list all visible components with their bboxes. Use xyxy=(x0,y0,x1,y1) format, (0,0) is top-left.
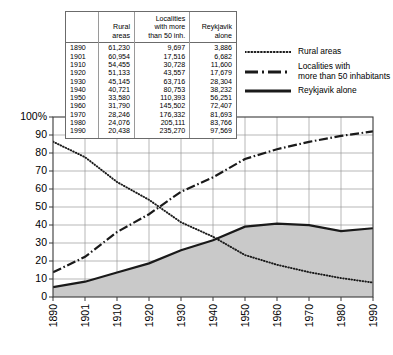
y-tick-label: 30 xyxy=(35,236,47,248)
table-row: 196031,790145,50272,407 xyxy=(66,102,236,110)
cell-rural-areas: 31,790 xyxy=(99,102,135,110)
cell-rural-areas: 45,145 xyxy=(99,78,135,86)
cell-localities: 205,111 xyxy=(134,119,189,127)
x-tick-label: 1950 xyxy=(239,304,251,328)
cell-year: 1980 xyxy=(66,119,99,127)
cell-year: 1990 xyxy=(66,127,99,137)
cell-year: 1920 xyxy=(66,69,99,77)
column-header-reykjavik: Reykjavik alone xyxy=(190,12,236,42)
y-tick-label: 0 xyxy=(41,290,47,302)
table-row: 198024,076205,11183,766 xyxy=(66,119,236,127)
legend-label: Reykjavik alone xyxy=(298,86,357,96)
y-tick-label: 70 xyxy=(35,164,47,176)
table-row: 189061,2309,6973,886 xyxy=(66,42,236,52)
cell-rural-areas: 28,246 xyxy=(99,111,135,119)
cell-rural-areas: 24,076 xyxy=(99,119,135,127)
cell-rural-areas: 60,954 xyxy=(99,53,135,61)
cell-year: 1960 xyxy=(66,102,99,110)
x-tick-label: 1901 xyxy=(79,304,91,328)
legend-label-line1: Reykjavik alone xyxy=(298,85,357,95)
cell-rural-areas: 33,580 xyxy=(99,94,135,102)
cell-reykjavik: 83,766 xyxy=(190,119,236,127)
chart-legend: Rural areasLocalities withmore than 50 i… xyxy=(245,47,390,101)
cell-reykjavik: 6,682 xyxy=(190,53,236,61)
y-tick-label: 50 xyxy=(35,200,47,212)
legend-item: Rural areas xyxy=(245,47,390,57)
column-header-localities: Localities with more than 50 inh. xyxy=(134,12,189,42)
cell-reykjavik: 3,886 xyxy=(190,42,236,52)
legend-item: Reykjavik alone xyxy=(245,86,390,96)
legend-swatch-dash-dot-icon xyxy=(245,67,291,77)
x-tick-label: 1980 xyxy=(335,304,347,328)
cell-localities: 235,270 xyxy=(134,127,189,137)
table-row: 192051,13343,55717,679 xyxy=(66,69,236,77)
y-tick-label: 100% xyxy=(20,110,47,122)
cell-reykjavik: 17,679 xyxy=(190,69,236,77)
x-tick-label: 1970 xyxy=(303,304,315,328)
legend-swatch-dotted-icon xyxy=(245,47,291,57)
y-tick-label: 10 xyxy=(35,272,47,284)
cell-rural-areas: 51,133 xyxy=(99,69,135,77)
header-localities-line1: Localities xyxy=(156,15,186,23)
cell-year: 1930 xyxy=(66,78,99,86)
data-table: Rural areas Localities with more than 50… xyxy=(65,11,237,139)
table-row: 195033,580110,39356,251 xyxy=(66,94,236,102)
cell-year: 1950 xyxy=(66,94,99,102)
y-tick-label: 80 xyxy=(35,146,47,158)
x-tick-label: 1930 xyxy=(175,304,187,328)
legend-label-line1: Localities with xyxy=(298,61,350,71)
y-tick-label: 40 xyxy=(35,218,47,230)
legend-swatch-solid-icon xyxy=(245,86,291,96)
cell-reykjavik: 11,600 xyxy=(190,61,236,69)
cell-reykjavik: 97,569 xyxy=(190,127,236,137)
cell-rural-areas: 40,721 xyxy=(99,86,135,94)
x-tick-label: 1990 xyxy=(367,304,379,328)
header-rural-line2: areas xyxy=(112,32,130,40)
chart-figure: 0102030405060708090100% 1890190119101920… xyxy=(0,0,393,355)
legend-label: Localities withmore than 50 inhabitants xyxy=(298,62,390,81)
x-tick-label: 1960 xyxy=(271,304,283,328)
legend-label: Rural areas xyxy=(298,47,341,57)
legend-item: Localities withmore than 50 inhabitants xyxy=(245,62,390,81)
cell-localities: 145,502 xyxy=(134,102,189,110)
table-head: Rural areas Localities with more than 50… xyxy=(66,12,236,42)
table-row: 197028,246176,33281,693 xyxy=(66,111,236,119)
header-rural-line1: Rural xyxy=(113,23,130,31)
cell-localities: 80,753 xyxy=(134,86,189,94)
cell-rural-areas: 20,438 xyxy=(99,127,135,137)
cell-reykjavik: 28,304 xyxy=(190,78,236,86)
table-row: 191054,45530,72811,600 xyxy=(66,61,236,69)
column-header-rural-areas: Rural areas xyxy=(99,12,135,42)
cell-reykjavik: 72,407 xyxy=(190,102,236,110)
cell-reykjavik: 56,251 xyxy=(190,94,236,102)
header-localities-line2: with more xyxy=(155,23,186,31)
table-body: 189061,2309,6973,886190160,95417,5166,68… xyxy=(66,42,236,137)
cell-year: 1901 xyxy=(66,53,99,61)
legend-label-line1: Rural areas xyxy=(298,46,341,56)
cell-year: 1970 xyxy=(66,111,99,119)
cell-rural-areas: 61,230 xyxy=(99,42,135,52)
cell-year: 1890 xyxy=(66,42,99,52)
y-tick-label: 90 xyxy=(35,128,47,140)
table-row: 194040,72180,75338,232 xyxy=(66,86,236,94)
population-table: Rural areas Localities with more than 50… xyxy=(66,12,236,138)
x-tick-label: 1920 xyxy=(143,304,155,328)
x-tick-label: 1890 xyxy=(47,304,59,328)
legend-label-line2: more than 50 inhabitants xyxy=(298,72,390,82)
x-tick-label: 1940 xyxy=(207,304,219,328)
x-axis: 1890190119101920193019401950196019701980… xyxy=(47,297,379,327)
header-localities-line3: than 50 inh. xyxy=(148,32,185,40)
cell-localities: 176,332 xyxy=(134,111,189,119)
cell-localities: 9,697 xyxy=(134,42,189,52)
table-row: 199020,438235,27097,569 xyxy=(66,127,236,137)
table-header-row: Rural areas Localities with more than 50… xyxy=(66,12,236,42)
cell-reykjavik: 81,693 xyxy=(190,111,236,119)
x-tick-label: 1910 xyxy=(111,304,123,328)
cell-year: 1940 xyxy=(66,86,99,94)
column-header-year xyxy=(66,12,99,42)
header-reykjavik-line1: Reykjavik xyxy=(202,23,232,31)
cell-localities: 43,557 xyxy=(134,69,189,77)
cell-year: 1910 xyxy=(66,61,99,69)
cell-localities: 17,516 xyxy=(134,53,189,61)
table-row: 193045,14563,71628,304 xyxy=(66,78,236,86)
